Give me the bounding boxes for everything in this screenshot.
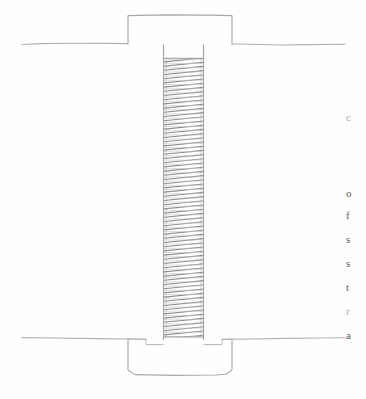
thread-flank	[164, 297, 204, 301]
thread-flank	[164, 184, 204, 188]
thread-flank	[164, 146, 204, 150]
thread-flank	[164, 318, 204, 322]
seat-notch-right	[204, 339, 223, 344]
thread-flank	[164, 62, 204, 66]
thread-flank	[164, 239, 204, 243]
thread-flank	[164, 155, 204, 159]
thread-flank	[164, 327, 204, 331]
thread-flank	[164, 192, 204, 196]
thread-flank	[164, 125, 204, 129]
thread-flank	[164, 276, 204, 280]
thread-flank	[164, 260, 204, 264]
thread-flank	[164, 247, 204, 251]
upper-plate-line-left	[22, 43, 128, 44]
thread-flank	[164, 226, 204, 230]
thread-flank	[164, 201, 204, 205]
upper-plate-line-right	[232, 44, 345, 45]
thread-flank	[164, 79, 204, 83]
scanned-page: cofsstra	[0, 0, 366, 399]
thread-flank	[164, 129, 204, 133]
thread-flank	[164, 285, 204, 289]
thread-flank	[164, 331, 204, 335]
thread-flank	[164, 323, 204, 327]
thread-flank	[164, 205, 204, 209]
thread-flank	[164, 71, 204, 75]
thread-flank	[164, 108, 204, 112]
thread-flank	[164, 150, 204, 154]
thread-flank	[164, 167, 204, 171]
seat-notch-left	[146, 339, 164, 344]
thread-flank	[164, 197, 204, 201]
thread-flank	[164, 100, 204, 104]
thread-flank	[164, 306, 204, 310]
thread-flank	[164, 138, 204, 142]
thread-flank	[164, 66, 204, 70]
thread-flank	[164, 268, 204, 272]
lower-plate-line-left	[22, 338, 146, 340]
thread-flank	[164, 264, 204, 268]
lower-plate-line-right	[222, 338, 345, 340]
thread-flank	[164, 302, 204, 306]
thread-flank	[164, 113, 204, 117]
thread-flank	[164, 188, 204, 192]
thread-flank	[164, 87, 204, 91]
thread-flank	[164, 176, 204, 180]
thread-flank	[164, 96, 204, 100]
thread-flank	[164, 104, 204, 108]
thread-flank	[164, 289, 204, 293]
thread-flank	[164, 83, 204, 87]
thread-flank	[164, 142, 204, 146]
thread-flank	[164, 180, 204, 184]
thread-flank	[164, 243, 204, 247]
thread-flank	[164, 272, 204, 276]
fastener-cross-section-figure	[0, 0, 366, 399]
thread-flank	[164, 92, 204, 96]
bolt-head-outline	[128, 15, 232, 45]
thread-flank	[164, 234, 204, 238]
thread-flank	[164, 255, 204, 259]
thread-flank	[164, 230, 204, 234]
thread-flank	[164, 171, 204, 175]
thread-flank	[164, 281, 204, 285]
thread-flank	[164, 218, 204, 222]
thread-flank	[164, 75, 204, 79]
threaded-shank-threads	[164, 58, 204, 339]
thread-flank	[164, 314, 204, 318]
thread-flank	[164, 213, 204, 217]
thread-flank	[164, 159, 204, 163]
thread-flank	[164, 163, 204, 167]
thread-flank	[164, 293, 204, 297]
thread-flank	[164, 310, 204, 314]
thread-flank	[164, 222, 204, 226]
thread-flank	[164, 117, 204, 121]
thread-flank	[164, 209, 204, 213]
thread-flank	[164, 134, 204, 138]
thread-flank	[164, 251, 204, 255]
thread-flank	[164, 121, 204, 125]
